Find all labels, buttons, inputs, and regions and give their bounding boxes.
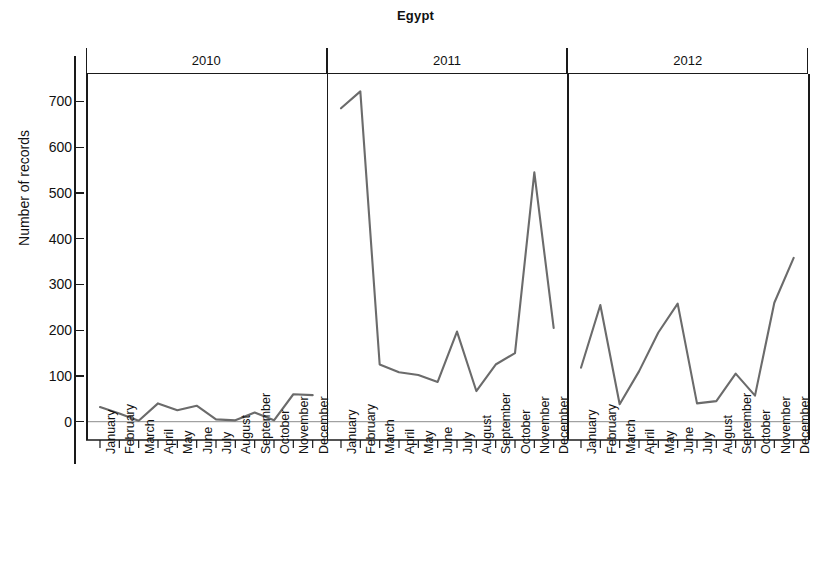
x-tick-label: September xyxy=(500,393,513,454)
x-tick-label: April xyxy=(644,429,657,454)
x-tick-label: January xyxy=(346,410,359,454)
panel-2011 xyxy=(327,74,568,464)
series-line-2011 xyxy=(341,91,554,391)
x-tick-label: November xyxy=(780,396,793,454)
x-tick-label: September xyxy=(260,393,273,454)
y-tick-label: 500 xyxy=(24,186,72,200)
x-tick-label: February xyxy=(606,404,619,454)
x-tick-label: October xyxy=(520,410,533,454)
x-tick-label: May xyxy=(664,430,677,454)
x-tick-label: November xyxy=(539,396,552,454)
y-tick-label: 200 xyxy=(24,323,72,337)
panel-divider xyxy=(567,74,569,440)
y-tick-label: 300 xyxy=(24,277,72,291)
x-tick-label: June xyxy=(442,427,455,454)
panel-strip-label: 2011 xyxy=(433,53,461,68)
panel-divider xyxy=(86,74,88,440)
x-tick-label: June xyxy=(683,427,696,454)
series-line-2012 xyxy=(581,258,794,404)
x-tick-label: May xyxy=(182,430,195,454)
panel-strip-2011: 2011 xyxy=(327,48,568,74)
x-tick-label: June xyxy=(202,427,215,454)
x-tick-label: March xyxy=(625,419,638,454)
x-tick-label: November xyxy=(298,396,311,454)
y-tick-label: 100 xyxy=(24,369,72,383)
chart-figure: Egypt Number of records 0100200300400500… xyxy=(0,0,831,568)
x-tick-label: August xyxy=(481,415,494,454)
x-tick-label: February xyxy=(365,404,378,454)
y-tick-mark xyxy=(76,284,84,285)
x-tick-label: August xyxy=(722,415,735,454)
x-tick-label: May xyxy=(423,430,436,454)
panel-2012 xyxy=(567,74,808,464)
panel-divider xyxy=(327,74,329,440)
y-tick-label: 0 xyxy=(24,415,72,429)
x-tick-label: March xyxy=(144,419,157,454)
x-tick-label: July xyxy=(462,432,475,454)
panel-plot-2012 xyxy=(567,74,808,464)
x-tick-label: July xyxy=(702,432,715,454)
y-tick-mark xyxy=(76,421,84,422)
x-tick-label: December xyxy=(558,396,571,454)
x-tick-label: August xyxy=(240,415,253,454)
y-tick-mark xyxy=(76,330,84,331)
panel-strip-2010: 2010 xyxy=(86,48,327,74)
x-tick-label: April xyxy=(404,429,417,454)
y-tick-mark xyxy=(76,192,84,193)
x-tick-label: October xyxy=(279,410,292,454)
x-tick-label: July xyxy=(221,432,234,454)
x-tick-label: January xyxy=(105,410,118,454)
y-tick-mark xyxy=(76,101,84,102)
y-tick-mark xyxy=(76,147,84,148)
x-tick-label: October xyxy=(760,410,773,454)
y-axis-ticks: 0100200300400500600700 xyxy=(16,0,72,568)
x-tick-label: December xyxy=(799,396,812,454)
y-tick-label: 400 xyxy=(24,232,72,246)
y-tick-label: 700 xyxy=(24,94,72,108)
y-axis-spine xyxy=(74,56,76,464)
y-tick-label: 600 xyxy=(24,140,72,154)
x-tick-label: September xyxy=(741,393,754,454)
y-tick-mark xyxy=(76,238,84,239)
x-tick-label: March xyxy=(384,419,397,454)
panel-plot-2011 xyxy=(327,74,568,464)
x-tick-label: December xyxy=(318,396,331,454)
chart-title: Egypt xyxy=(0,8,831,23)
panel-strip-label: 2010 xyxy=(192,53,221,68)
panel-strip-label: 2012 xyxy=(673,53,702,68)
y-tick-mark xyxy=(76,375,84,376)
x-tick-label: January xyxy=(586,410,599,454)
x-tick-label: February xyxy=(124,404,137,454)
panel-border-right xyxy=(808,74,810,440)
panel-strip-2012: 2012 xyxy=(567,48,808,74)
x-tick-label: April xyxy=(163,429,176,454)
